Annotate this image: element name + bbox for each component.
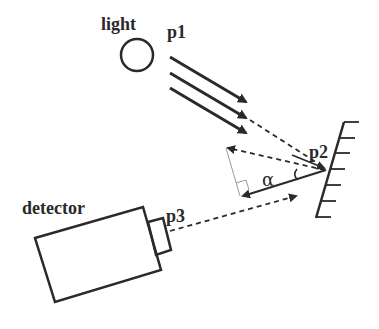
right-angle-construction <box>226 148 249 196</box>
p2-label: p2 <box>309 142 328 162</box>
light-label: light <box>101 14 136 34</box>
reference-ray <box>243 170 326 196</box>
detector-label: detector <box>22 198 85 218</box>
detector-body <box>35 207 161 302</box>
detector <box>35 207 171 302</box>
p1-label: p1 <box>167 22 186 42</box>
diagram-canvas: light p1 α <box>0 0 379 329</box>
mirror-surface <box>316 122 344 218</box>
incident-rays <box>170 57 246 133</box>
alpha-label: α <box>262 169 274 190</box>
light-bulb-icon <box>121 39 153 71</box>
p3-label: p3 <box>166 206 185 226</box>
light-source: light <box>101 14 153 71</box>
detector-path-dashed <box>170 196 296 231</box>
